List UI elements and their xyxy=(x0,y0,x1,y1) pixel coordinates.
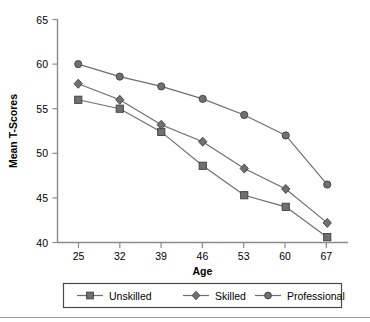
legend-label: Skilled xyxy=(215,290,246,302)
legend-marker xyxy=(87,292,94,299)
y-tick-label: 60 xyxy=(36,58,48,70)
data-point xyxy=(241,111,248,118)
x-tick-label: 32 xyxy=(114,250,126,262)
data-point xyxy=(282,132,289,139)
data-point xyxy=(75,96,82,103)
x-tick-label: 25 xyxy=(73,250,85,262)
x-tick-label: 60 xyxy=(279,250,291,262)
y-tick-label: 50 xyxy=(36,147,48,159)
y-tick-label: 65 xyxy=(36,14,48,26)
data-point xyxy=(199,162,206,169)
chart-figure: 65 60 55 50 45 40 25 32 39 46 53 60 67 xyxy=(0,0,370,322)
chart-background xyxy=(0,0,370,322)
y-tick-label: 40 xyxy=(36,237,48,249)
data-point xyxy=(324,234,331,241)
data-point xyxy=(199,95,206,102)
y-tick-label: 55 xyxy=(36,103,48,115)
data-point xyxy=(241,192,248,199)
legend-marker xyxy=(265,292,272,299)
data-point xyxy=(116,73,123,80)
legend-label: Professional xyxy=(287,290,345,302)
x-tick-label: 53 xyxy=(238,250,250,262)
data-point xyxy=(282,203,289,210)
y-axis-title: Mean T-Scores xyxy=(7,94,19,168)
x-tick-label: 39 xyxy=(155,250,167,262)
data-point xyxy=(158,83,165,90)
data-point xyxy=(324,181,331,188)
x-tick-label: 46 xyxy=(197,250,209,262)
line-chart-svg: 65 60 55 50 45 40 25 32 39 46 53 60 67 xyxy=(0,0,370,322)
legend-label: Unskilled xyxy=(109,290,152,302)
data-point xyxy=(116,105,123,112)
x-axis-title: Age xyxy=(192,265,212,277)
x-tick-label: 67 xyxy=(320,250,332,262)
data-point xyxy=(75,61,82,68)
chart-legend: UnskilledSkilledProfessional xyxy=(64,284,345,308)
y-tick-label: 45 xyxy=(36,192,48,204)
